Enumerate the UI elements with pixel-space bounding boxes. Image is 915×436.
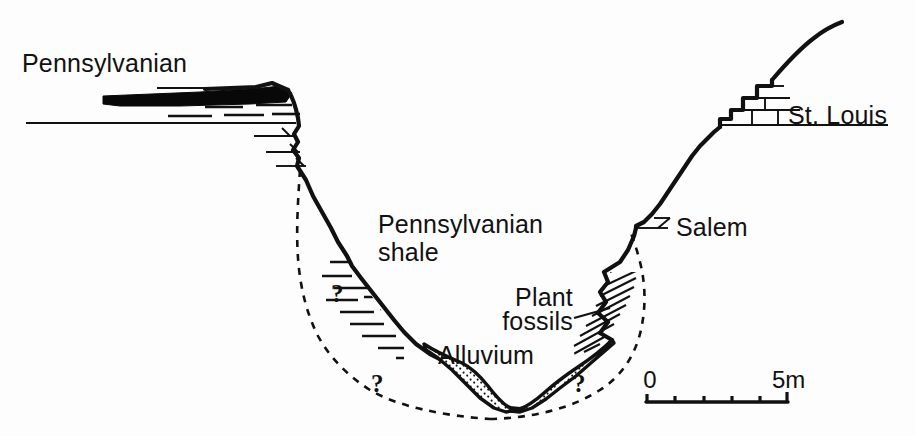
geologic-cross-section-figure: ? ? ? Pennsylvanian Pennsylvanian shale … bbox=[0, 0, 915, 436]
bedrock-surface-profile bbox=[288, 22, 842, 409]
label-salem: Salem bbox=[676, 213, 748, 241]
label-alluvium: Alluvium bbox=[438, 341, 534, 369]
question-mark-left-lower: ? bbox=[371, 370, 384, 397]
scale-bar-start-label: 0 bbox=[643, 366, 656, 393]
left-rim-limestone-marks bbox=[254, 128, 306, 166]
cross-section-canvas: ? ? ? Pennsylvanian Pennsylvanian shale … bbox=[0, 0, 915, 436]
label-pennsylvanian-shale-line2: shale bbox=[378, 238, 439, 266]
upland-shale-bedding-marks bbox=[168, 105, 300, 116]
left-valley-shale-bedding bbox=[322, 258, 424, 358]
label-plant-fossils-line2: fossils bbox=[502, 307, 573, 335]
label-pennsylvanian-shale-line1: Pennsylvanian bbox=[378, 210, 543, 238]
question-mark-left-upper: ? bbox=[331, 280, 344, 307]
scale-bar-end-label: 5m bbox=[772, 366, 805, 393]
coal-seam-pennsylvanian bbox=[103, 83, 292, 106]
question-mark-right-lower: ? bbox=[573, 370, 586, 397]
label-pennsylvanian: Pennsylvanian bbox=[22, 49, 187, 77]
scale-bar: 0 5m bbox=[643, 366, 805, 402]
label-st-louis: St. Louis bbox=[788, 101, 887, 129]
